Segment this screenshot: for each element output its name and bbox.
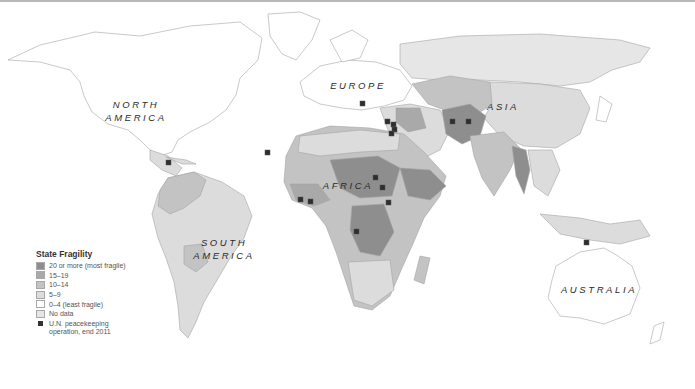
region-india <box>470 132 520 196</box>
legend-swatch <box>36 262 45 270</box>
region-southeast-asia <box>528 150 560 196</box>
label-africa: AFRICA <box>318 179 378 192</box>
legend-item-peacekeeping: U.N. peacekeeping operation, end 2011 <box>36 320 176 336</box>
legend-item-least-fragile: 0–4 (least fragile) <box>36 299 176 309</box>
label-south-america: SOUTH AMERICA <box>184 236 264 262</box>
peacekeeping-marker-western-sahara <box>265 150 270 155</box>
region-greenland <box>268 12 320 60</box>
legend-label: 0–4 (least fragile) <box>49 301 103 308</box>
legend-swatch <box>36 300 45 308</box>
legend-peacekeeping-line1: U.N. peacekeeping <box>49 320 111 328</box>
legend-swatch <box>36 271 45 279</box>
legend-swatch <box>36 310 45 318</box>
legend-swatch <box>36 281 45 289</box>
region-japan <box>596 96 612 122</box>
legend-label: 10–14 <box>49 281 68 288</box>
label-australia: AUSTRALIA <box>554 283 644 296</box>
legend-label: No data <box>49 310 74 317</box>
peacekeeping-marker-cyprus <box>385 119 390 124</box>
label-north-america-line1: NORTH <box>96 98 176 111</box>
label-south-america-line1: SOUTH <box>184 236 264 249</box>
peacekeeping-marker-haiti <box>166 160 171 165</box>
region-madagascar <box>414 256 430 284</box>
peacekeeping-marker-afghanistan <box>450 119 455 124</box>
region-russia <box>400 34 650 86</box>
peacekeeping-marker-timor-leste <box>584 240 589 245</box>
legend-item-most-fragile: 20 or more (most fragile) <box>36 261 176 271</box>
peacekeeping-marker-cote-divoire <box>308 199 313 204</box>
region-southern-africa <box>348 260 394 306</box>
legend-item-10-14: 10–14 <box>36 280 176 290</box>
region-myanmar <box>512 146 530 194</box>
legend-swatch <box>36 291 45 299</box>
peacekeeping-marker-kosovo <box>360 101 365 106</box>
legend-item-15-19: 15–19 <box>36 271 176 281</box>
peacekeeping-marker-israel <box>389 131 394 136</box>
peacekeeping-marker-icon <box>38 321 43 326</box>
label-south-america-line2: AMERICA <box>184 249 264 262</box>
label-asia: ASIA <box>478 100 528 113</box>
legend: State Fragility 20 or more (most fragile… <box>36 249 176 336</box>
peacekeeping-marker-south-sudan <box>386 200 391 205</box>
peacekeeping-marker-abyei <box>380 185 385 190</box>
peacekeeping-marker-drc <box>354 229 359 234</box>
legend-item-5-9: 5–9 <box>36 290 176 300</box>
label-europe: EUROPE <box>328 79 388 92</box>
region-scandinavia <box>330 30 368 62</box>
legend-item-no-data: No data <box>36 309 176 319</box>
peacekeeping-marker-liberia <box>298 197 303 202</box>
legend-label: 15–19 <box>49 272 68 279</box>
legend-label: 20 or more (most fragile) <box>49 262 126 269</box>
region-indonesia <box>540 214 650 244</box>
peacekeeping-marker-kashmir <box>466 119 471 124</box>
peacekeeping-marker-lebanon <box>391 122 396 127</box>
legend-title: State Fragility <box>36 249 176 259</box>
legend-peacekeeping-text: U.N. peacekeeping operation, end 2011 <box>49 320 111 336</box>
legend-peacekeeping-line2: operation, end 2011 <box>49 328 111 336</box>
label-north-america: NORTH AMERICA <box>96 98 176 124</box>
region-north-america <box>8 22 262 156</box>
label-north-america-line2: AMERICA <box>96 111 176 124</box>
legend-label: 5–9 <box>49 291 61 298</box>
region-new-zealand <box>650 322 664 344</box>
